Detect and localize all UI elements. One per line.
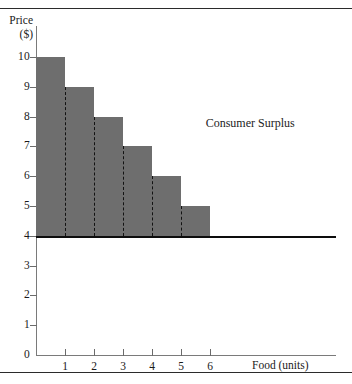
consumer-surplus-label: Consumer Surplus: [206, 116, 295, 130]
x-axis-tick: [94, 349, 95, 356]
unit-divider-line: [65, 87, 66, 236]
y-axis-tick-label: 0: [4, 349, 30, 361]
top-divider-rule: [0, 8, 352, 9]
y-axis-tick-label: 7: [4, 140, 30, 152]
unit-divider-line: [152, 176, 153, 236]
x-axis-tick-label: 3: [113, 360, 133, 372]
demand-step-bar: [94, 117, 123, 236]
unit-divider-line: [94, 117, 95, 236]
x-axis-tick-label: 1: [55, 360, 75, 372]
x-axis-tick: [210, 349, 211, 356]
y-axis-title-line2: ($): [2, 28, 33, 42]
x-axis-line: [36, 355, 336, 356]
y-axis-tick: [30, 325, 37, 326]
y-axis-tick-label: 8: [4, 111, 30, 123]
y-axis-tick: [30, 266, 37, 267]
x-axis-tick: [152, 349, 153, 356]
y-axis-tick-label: 10: [4, 51, 30, 63]
y-axis-tick-label: 3: [4, 260, 30, 272]
x-axis-tick-label: 6: [200, 360, 220, 372]
y-axis-tick-label: 1: [4, 319, 30, 331]
market-price-line: [36, 236, 336, 238]
y-axis-tick: [30, 295, 37, 296]
y-axis-tick-label: 9: [4, 81, 30, 93]
y-axis-title-line1: Price: [2, 14, 33, 28]
x-axis-tick: [123, 349, 124, 356]
bottom-divider-rule: [0, 372, 352, 373]
y-axis-tick-label: 2: [4, 289, 30, 301]
unit-divider-line: [123, 146, 124, 235]
consumer-surplus-figure: Price ($) 012345678910 123456 Consumer S…: [0, 0, 352, 384]
x-axis-tick-label: 5: [171, 360, 191, 372]
y-axis-tick-label: 5: [4, 200, 30, 212]
x-axis-tick-label: 4: [142, 360, 162, 372]
demand-step-bar: [152, 176, 181, 236]
x-axis-tick: [65, 349, 66, 356]
x-axis-tick: [181, 349, 182, 356]
x-axis-tick-label: 2: [84, 360, 104, 372]
demand-step-bar: [181, 206, 210, 236]
x-axis-title: Food (units): [252, 359, 309, 372]
y-axis-tick-label: 6: [4, 170, 30, 182]
demand-step-bar: [123, 146, 152, 235]
y-axis-title: Price ($): [2, 14, 33, 41]
demand-step-bar: [65, 87, 94, 236]
unit-divider-line: [181, 206, 182, 236]
y-axis-tick-label: 4: [4, 230, 30, 242]
demand-step-bar: [36, 57, 65, 236]
